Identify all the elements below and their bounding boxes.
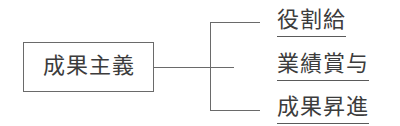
root-connector-line bbox=[153, 67, 234, 68]
child-node-role-pay: 役割給 bbox=[277, 7, 346, 37]
branch-vertical-line bbox=[210, 22, 211, 111]
root-node-label: 成果主義 bbox=[24, 53, 153, 79]
root-node-box: 成果主義 bbox=[23, 42, 154, 92]
branch-line-1 bbox=[210, 22, 260, 23]
branch-line-3 bbox=[210, 110, 260, 111]
child-node-merit-promotion: 成果昇進 bbox=[277, 94, 369, 124]
child-node-performance-bonus: 業績賞与 bbox=[277, 51, 369, 81]
